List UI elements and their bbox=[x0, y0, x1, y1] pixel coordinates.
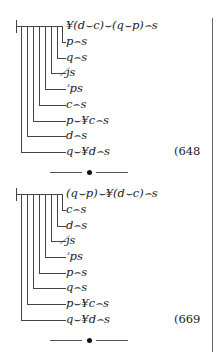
branch-line bbox=[39, 26, 40, 105]
page-margin-rule bbox=[212, 18, 213, 352]
formula-main: (q⌣p)⌣¥(d⌣c)⌢s bbox=[66, 187, 158, 199]
separator-line-left bbox=[50, 172, 82, 173]
branch-line bbox=[33, 26, 34, 121]
formula-premise: q⌣¥d⌢s bbox=[66, 145, 110, 157]
branch-line bbox=[27, 194, 28, 304]
formula-premise: p⌣¥c⌢s bbox=[66, 297, 109, 309]
equation-number: (648 bbox=[174, 145, 200, 157]
branch-tick bbox=[51, 73, 66, 74]
branch-line bbox=[21, 26, 22, 152]
branch-tick bbox=[45, 89, 66, 90]
formula-premise: c⌢s bbox=[66, 98, 86, 110]
branch-line bbox=[45, 26, 46, 89]
branch-tick bbox=[39, 273, 66, 274]
formula-premise: p⌢s bbox=[66, 266, 87, 278]
formula-premise: ʾps bbox=[66, 250, 83, 262]
formula-premise: d⌢s bbox=[66, 129, 87, 141]
branch-line bbox=[51, 194, 52, 241]
separator-line-right bbox=[96, 172, 128, 173]
branch-tick bbox=[45, 257, 66, 258]
separator-line-left bbox=[50, 340, 82, 341]
branch-tick bbox=[21, 152, 66, 153]
branch-line bbox=[62, 194, 63, 210]
separator-line-right bbox=[96, 340, 128, 341]
formula-premise: q⌢s bbox=[66, 281, 87, 293]
branch-line bbox=[62, 26, 63, 42]
formula-premise: q⌣¥d⌢s bbox=[66, 313, 110, 325]
branch-line bbox=[57, 194, 58, 226]
branch-tick bbox=[27, 304, 66, 305]
branch-tick bbox=[57, 226, 66, 227]
branch-tick bbox=[27, 136, 66, 137]
branch-line bbox=[39, 194, 40, 273]
branch-tick bbox=[57, 58, 66, 59]
formula-premise: ȷ̸s bbox=[66, 234, 75, 246]
separator-dot-icon bbox=[87, 338, 92, 343]
formula-premise: p⌣¥c⌢s bbox=[66, 114, 109, 126]
equation-number: (669 bbox=[174, 313, 200, 325]
branch-tick bbox=[33, 121, 66, 122]
branch-line bbox=[27, 26, 28, 136]
formula-premise: q⌢s bbox=[66, 51, 87, 63]
branch-tick bbox=[51, 241, 66, 242]
branch-tick bbox=[39, 105, 66, 106]
branch-line bbox=[57, 26, 58, 58]
formula-main: ¥(d⌣c)⌣(q⌣p)⌢s bbox=[66, 19, 158, 31]
branch-line bbox=[45, 194, 46, 257]
separator-dot-icon bbox=[87, 170, 92, 175]
formula-premise: c⌢s bbox=[66, 203, 86, 215]
formula-premise: d⌢s bbox=[66, 219, 87, 231]
formula-premise: p⌢s bbox=[66, 35, 87, 47]
branch-tick bbox=[33, 288, 66, 289]
formula-premise: ȷ̸s bbox=[66, 66, 75, 78]
branch-tick bbox=[21, 320, 66, 321]
branch-line bbox=[51, 26, 52, 73]
formula-premise: ʾps bbox=[66, 82, 83, 94]
branch-line bbox=[33, 194, 34, 288]
branch-line bbox=[21, 194, 22, 320]
